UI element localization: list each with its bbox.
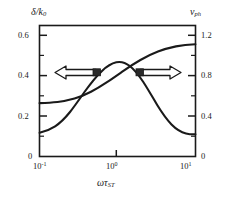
left-pointer-arrow: [55, 66, 101, 79]
left-arrow-marker-box: [93, 69, 101, 76]
plot-frame: [40, 26, 196, 157]
chart-figure: δ/k0 vph 0.6 0.4 0.2 0 1.2 0.8 0.4 0 10-…: [0, 0, 230, 199]
right-pointer-arrow: [136, 66, 181, 79]
right-axis-ticks: [188, 35, 196, 116]
right-arrow-shape: [140, 66, 181, 79]
plot-area: [0, 0, 230, 199]
right-arrow-marker-box: [136, 69, 144, 76]
left-arrow-shape: [55, 66, 96, 79]
